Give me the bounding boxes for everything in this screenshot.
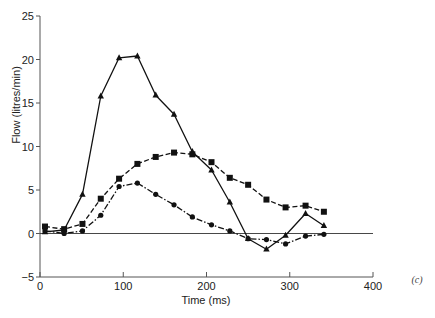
y-tick-label: −5: [21, 271, 34, 283]
circle-marker: [209, 222, 214, 227]
square-marker: [208, 159, 214, 165]
y-tick-label: 20: [22, 54, 34, 66]
x-axis-label: Time (ms): [181, 294, 230, 306]
square-marker: [153, 154, 159, 160]
circle-marker: [321, 232, 326, 237]
circle-marker: [62, 231, 67, 236]
circle-marker: [98, 213, 103, 218]
triangle-marker: [98, 92, 104, 98]
series-line-triangles: [45, 56, 324, 249]
square-marker: [79, 221, 85, 227]
square-marker: [98, 196, 104, 202]
square-marker: [245, 182, 251, 188]
square-marker: [134, 161, 140, 167]
circle-marker: [264, 237, 269, 242]
y-tick-label: 25: [22, 10, 34, 22]
flow-time-chart: −505101520250100200300400 Time (ms) Flow…: [0, 0, 435, 318]
square-marker: [283, 204, 289, 210]
x-tick-label: 0: [37, 280, 43, 292]
circle-marker: [153, 192, 158, 197]
triangle-marker: [321, 222, 327, 228]
circle-marker: [80, 228, 85, 233]
square-marker: [321, 209, 327, 215]
x-tick-label: 100: [114, 280, 132, 292]
circle-marker: [303, 234, 308, 239]
triangle-marker: [134, 52, 140, 58]
axes: −505101520250100200300400: [21, 10, 382, 292]
series-squares: [42, 150, 327, 233]
data-series: [42, 52, 327, 251]
square-marker: [263, 197, 269, 203]
x-tick-label: 200: [197, 280, 215, 292]
circle-marker: [171, 202, 176, 207]
panel-label: (c): [411, 274, 423, 286]
series-line-circles: [45, 183, 324, 244]
triangle-marker: [79, 191, 85, 197]
y-tick-label: 0: [28, 228, 34, 240]
triangle-marker: [302, 210, 308, 216]
series-line-squares: [45, 153, 324, 230]
square-marker: [116, 176, 122, 182]
circle-marker: [190, 214, 195, 219]
circle-marker: [42, 228, 47, 233]
circle-marker: [246, 236, 251, 241]
x-tick-label: 400: [364, 280, 382, 292]
y-tick-label: 15: [22, 97, 34, 109]
y-axis-label: Flow (litres/min): [10, 66, 22, 144]
y-tick-label: 10: [22, 141, 34, 153]
square-marker: [303, 203, 309, 209]
triangle-marker: [153, 92, 159, 98]
circle-marker: [135, 180, 140, 185]
square-marker: [171, 150, 177, 156]
circle-marker: [283, 241, 288, 246]
y-tick-label: 5: [28, 184, 34, 196]
circle-marker: [227, 228, 232, 233]
x-tick-label: 300: [281, 280, 299, 292]
square-marker: [189, 151, 195, 157]
circle-marker: [116, 184, 121, 189]
square-marker: [227, 175, 233, 181]
